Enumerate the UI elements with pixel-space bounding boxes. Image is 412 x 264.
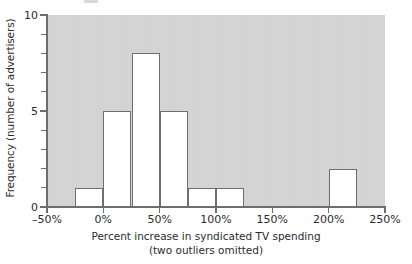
histogram-bar xyxy=(216,188,244,207)
bars-group xyxy=(0,0,412,264)
histogram-bar xyxy=(329,169,357,207)
histogram-bar xyxy=(160,111,188,207)
histogram-bar xyxy=(103,111,131,207)
histogram-figure: Frequency (number of advertisers) 0510 –… xyxy=(0,0,412,264)
histogram-bar xyxy=(132,53,160,207)
histogram-bar xyxy=(75,188,103,207)
histogram-bar xyxy=(188,188,216,207)
